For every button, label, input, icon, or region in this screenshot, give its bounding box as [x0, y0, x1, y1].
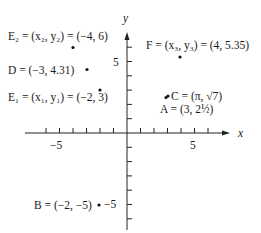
y-tick-label-5: 5 [113, 56, 119, 68]
point-e2 [71, 46, 74, 49]
x-axis-arrow-icon [222, 131, 230, 136]
x-tick-label-5: 5 [190, 139, 196, 151]
label-a: A = (3, 2½) [160, 103, 214, 116]
label-b: B = (−2, −5) [34, 199, 92, 212]
point-d [85, 68, 88, 71]
y-tick-label-neg5: −5 [104, 198, 116, 210]
point-f [178, 55, 181, 58]
label-f: F = (x₃, y₃) = (4, 5.35) [146, 39, 249, 52]
label-e2: E₂ = (x₂, y₂) = (−4, 6) [8, 30, 108, 43]
label-d: D = (−3, 4.31) [8, 64, 74, 77]
point-b [97, 203, 100, 206]
x-axis-label: x [237, 127, 244, 139]
y-axis-label: y [122, 12, 129, 25]
point-a [164, 96, 167, 99]
coordinate-plane: y x −5 5 5 −5 E₂ = (x₂, y₂) = (−4, 6) D … [0, 0, 261, 233]
label-c: C = (π, √7) [171, 90, 222, 103]
label-e1: E₁ = (x₁, y₁) = (−2, 3) [8, 91, 108, 104]
x-tick-label-neg5: −5 [50, 139, 62, 151]
y-axis-arrow-icon [125, 32, 130, 40]
